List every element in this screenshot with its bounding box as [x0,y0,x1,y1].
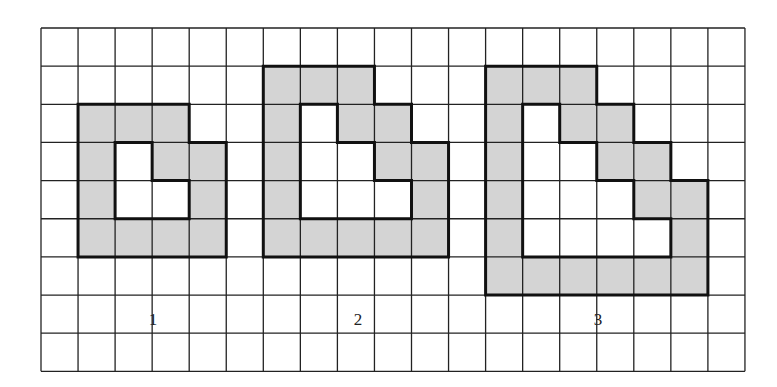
shaded-cell [152,104,189,142]
figure-label-2: 2 [354,310,363,330]
shaded-cell [634,181,671,219]
shaded-cell [189,142,226,180]
shaded-cell [374,219,411,257]
shaded-cell [300,66,337,104]
grid-diagram [0,0,777,387]
shaded-cell [115,104,152,142]
shaded-cell [300,219,337,257]
shaded-cell [78,104,115,142]
shaded-cell [78,142,115,180]
shaded-cell [374,104,411,142]
shaded-cell [523,66,560,104]
shaded-cell [486,104,523,142]
shaded-cell [486,219,523,257]
shaded-cell [560,104,597,142]
shaded-cell [115,219,152,257]
shaded-cell [412,142,449,180]
shaded-cell [189,219,226,257]
shaded-cell [671,219,708,257]
shaded-cell [337,66,374,104]
shaded-cell [189,181,226,219]
figure-label-3: 3 [594,310,603,330]
shaded-cell [486,257,523,295]
shaded-cell [523,257,560,295]
shaded-cell [263,142,300,180]
shaded-cell [486,142,523,180]
shaded-cell [374,142,411,180]
shaded-cell [78,181,115,219]
shaded-cell [671,181,708,219]
shaded-cell [263,219,300,257]
shaded-cell [263,66,300,104]
shaded-cell [560,66,597,104]
shaded-cell [486,66,523,104]
shaded-cell [597,257,634,295]
shaded-cell [486,181,523,219]
shaded-cell [634,142,671,180]
shaded-cell [597,142,634,180]
shaded-cell [337,219,374,257]
shaded-cell [560,257,597,295]
shaded-cell [78,219,115,257]
shaded-cell [152,219,189,257]
figure-label-1: 1 [149,310,158,330]
shaded-cell [671,257,708,295]
shaded-cell [412,219,449,257]
shaded-cell [152,142,189,180]
shaded-cell [263,104,300,142]
shaded-cell [597,104,634,142]
shaded-cell [263,181,300,219]
shaded-cell [412,181,449,219]
shaded-cell [337,104,374,142]
shaded-cell [634,257,671,295]
